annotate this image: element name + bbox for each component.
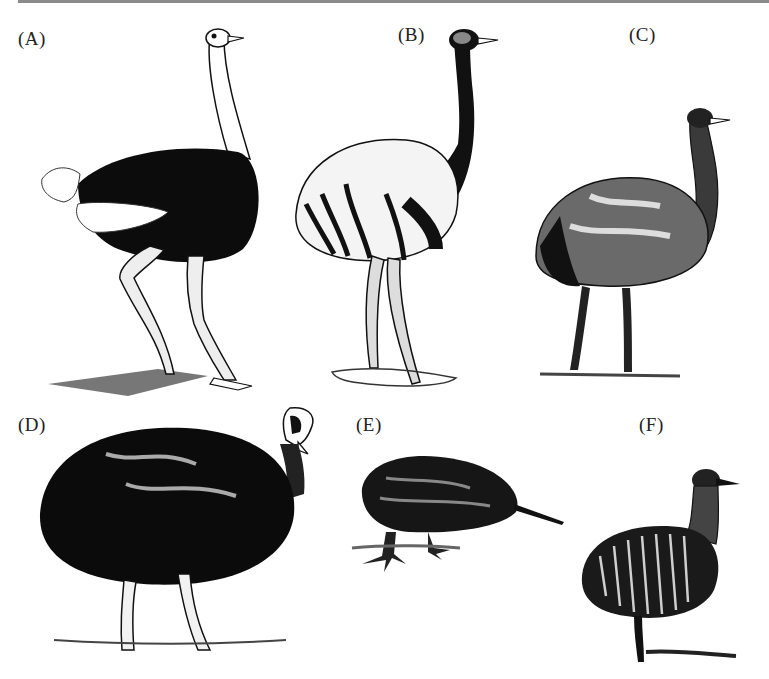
tinamou-illustration <box>576 466 746 666</box>
ostrich-illustration <box>38 24 268 404</box>
top-rule <box>18 0 769 3</box>
kiwi-illustration <box>350 448 570 578</box>
rhea-illustration <box>286 24 506 404</box>
panel-label-e: (E) <box>356 414 382 436</box>
panel-label-c: (C) <box>629 24 656 46</box>
emu-illustration <box>530 106 740 388</box>
cassowary-illustration <box>36 404 326 669</box>
panel-label-f: (F) <box>639 414 664 436</box>
